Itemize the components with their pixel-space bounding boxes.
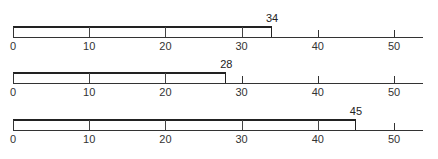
tick-mark [242,120,243,130]
x-axis [13,83,423,84]
tick-mark [318,76,319,84]
tick-mark [242,76,243,84]
tick-mark [89,120,90,130]
chart-1: 0102030405034 [0,0,438,50]
chart-3: 0102030405045 [0,93,438,143]
x-axis [13,130,423,131]
tick-label: 20 [159,134,171,145]
value-label: 28 [220,59,232,70]
value-label: 34 [266,13,278,24]
tick-mark [89,27,90,37]
chart-2: 0102030405028 [0,46,438,96]
tick-mark [165,120,166,130]
tick-mark [394,123,395,131]
tick-mark [318,30,319,38]
tick-label: 10 [83,134,95,145]
tick-label: 40 [312,134,324,145]
tick-mark [13,27,14,37]
tick-mark [165,73,166,83]
tick-mark [89,73,90,83]
tick-mark [165,27,166,37]
tick-label: 30 [235,134,247,145]
tick-mark [394,76,395,84]
x-axis [13,37,423,38]
tick-mark [13,120,14,130]
tick-mark [394,30,395,38]
tick-label: 50 [388,134,400,145]
value-label: 45 [350,106,362,117]
tick-mark [242,27,243,37]
tick-mark [13,73,14,83]
tick-label: 0 [10,134,16,145]
tick-mark [318,120,319,130]
